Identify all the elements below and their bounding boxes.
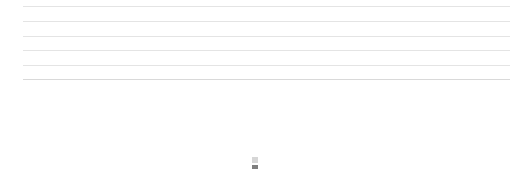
bar-series-container xyxy=(23,6,510,80)
legend-swatch-icon xyxy=(252,157,258,163)
legend-entry-engineering xyxy=(252,154,262,165)
legend-entry-science xyxy=(252,165,262,169)
chart-legend xyxy=(0,154,514,169)
x-axis-category-labels xyxy=(23,80,510,152)
y-axis-tick-labels xyxy=(0,6,20,80)
legend-swatch-icon xyxy=(252,165,258,169)
stacked-bar-chart xyxy=(0,0,514,181)
